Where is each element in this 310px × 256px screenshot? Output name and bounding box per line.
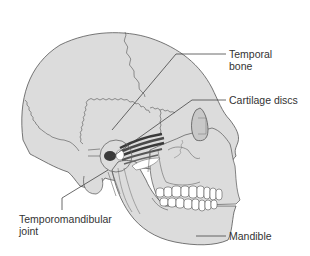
- label-cartilage-discs-text: Cartilage discs: [229, 94, 298, 106]
- label-tmj-line1: Temporomandibular: [19, 213, 112, 225]
- label-temporal-bone-line2: bone: [229, 60, 272, 72]
- label-mandible-text: Mandible: [229, 230, 272, 242]
- label-temporal-bone-line1: Temporal: [229, 48, 272, 60]
- label-temporal-bone: Temporal bone: [229, 48, 272, 72]
- label-tmj-line2: joint: [19, 225, 112, 237]
- condyle: [104, 151, 116, 161]
- label-temporomandibular-joint: Temporomandibular joint: [19, 213, 112, 237]
- label-mandible: Mandible: [229, 230, 272, 242]
- label-cartilage-discs: Cartilage discs: [229, 94, 298, 106]
